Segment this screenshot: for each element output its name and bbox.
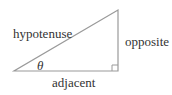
angle-theta-label: θ — [37, 59, 43, 72]
adjacent-label: adjacent — [52, 76, 95, 89]
right-angle-marker — [112, 65, 118, 71]
hypotenuse-label: hypotenuse — [13, 27, 72, 40]
opposite-label: opposite — [125, 35, 169, 48]
